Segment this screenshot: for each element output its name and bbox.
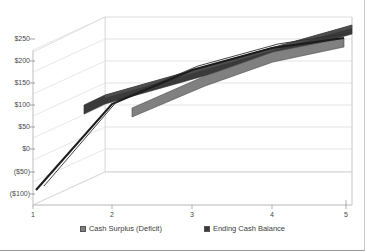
x-axis-label-4: 5 <box>338 211 354 218</box>
y-axis-label-2: $150 <box>4 79 30 86</box>
legend-item-ending-cash-balance[interactable]: Ending Cash Balance <box>204 224 285 233</box>
y-axis-label-1: $200 <box>4 57 30 64</box>
y-axis-label-4: $50 <box>4 123 30 130</box>
legend-item-cash-surplus-deficit[interactable]: Cash Surplus (Deficit) <box>80 224 162 233</box>
x-axis-label-2: 3 <box>184 211 200 218</box>
y-axis-label-7: ($100) <box>0 190 30 197</box>
chart-container: $250 $200 $150 $100 $50 $0 ($50) ($100) … <box>0 0 365 251</box>
x-axis-label-0: 1 <box>25 211 41 218</box>
legend-label-ending-cash-balance: Ending Cash Balance <box>213 224 285 233</box>
x-axis-label-1: 2 <box>104 211 120 218</box>
y-axis-label-5: $0 <box>4 145 30 152</box>
legend-label-cash-surplus-deficit: Cash Surplus (Deficit) <box>89 224 162 233</box>
y-axis-label-0: $250 <box>4 35 30 42</box>
chart-legend: Cash Surplus (Deficit) Ending Cash Balan… <box>0 224 365 233</box>
y-axis-label-3: $100 <box>4 101 30 108</box>
y-axis-label-6: ($50) <box>2 168 30 175</box>
legend-swatch-icon-ending-cash-balance <box>204 226 210 232</box>
plot-area <box>0 0 365 251</box>
x-axis-label-3: 4 <box>264 211 280 218</box>
legend-swatch-icon-cash-surplus-deficit <box>80 226 86 232</box>
